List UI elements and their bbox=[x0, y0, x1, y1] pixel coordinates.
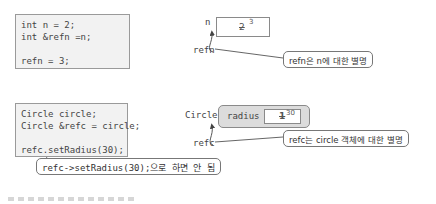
new-value: 30 bbox=[286, 109, 295, 117]
class-label-circle: Circle bbox=[185, 110, 218, 120]
variable-box-n: 2 3 bbox=[216, 17, 270, 37]
code-line: int n = 2; bbox=[21, 19, 124, 31]
old-value-struck: 1 bbox=[279, 111, 285, 121]
reference-label-refn: refn bbox=[193, 45, 215, 55]
code-line: Circle &refc = circle; bbox=[21, 120, 122, 132]
old-value-struck: 2 bbox=[239, 22, 245, 32]
circle-object-box: radius 1 30 bbox=[218, 105, 310, 128]
code-line: int &refn =n; bbox=[21, 31, 124, 43]
callout-refn-alias: refn은 n에 대한 별명 bbox=[283, 51, 373, 68]
reference-label-refc: refc bbox=[193, 138, 215, 148]
code-block-int-reference: int n = 2; int &refn =n; refn = 3; bbox=[15, 14, 130, 69]
member-label-radius: radius bbox=[227, 111, 260, 121]
callout-pointer-refc bbox=[215, 137, 283, 142]
truncated-text-line bbox=[8, 197, 138, 201]
callout-pointer-refn bbox=[215, 49, 283, 58]
code-line bbox=[21, 43, 124, 55]
code-line: refn = 3; bbox=[21, 55, 124, 67]
code-line: Circle circle; bbox=[21, 108, 122, 120]
code-line bbox=[21, 132, 122, 144]
code-block-object-reference: Circle circle; Circle &refc = circle; re… bbox=[15, 103, 128, 157]
radius-value-box: 1 30 bbox=[264, 109, 301, 124]
callout-warning-arrow-operator: refc->setRadius(30);으로 하면 안 됨 bbox=[36, 158, 221, 175]
callout-refc-alias: refc는 circle 객체에 대한 별명 bbox=[283, 130, 409, 147]
code-line: refc.setRadius(30); bbox=[21, 144, 122, 156]
new-value: 3 bbox=[249, 18, 253, 26]
variable-label-n: n bbox=[205, 17, 210, 27]
